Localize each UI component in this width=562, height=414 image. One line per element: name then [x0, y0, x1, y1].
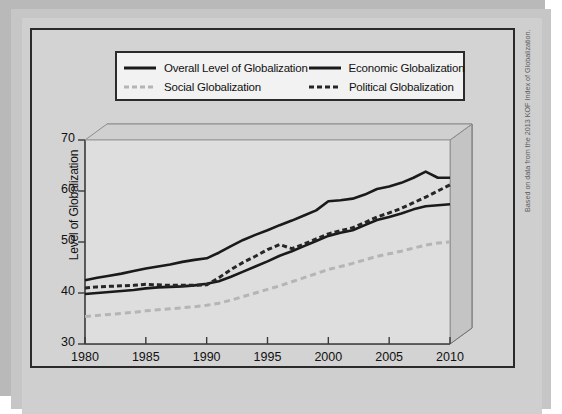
x-tick-label: 2000 [306, 350, 350, 364]
legend-row-1: Overall Level of Globalization Economic … [123, 58, 457, 77]
legend-row-2: Social Globalization Political Globaliza… [123, 77, 457, 96]
legend-label-political: Political Globalization [349, 81, 454, 93]
legend-label-economic: Economic Globalization [349, 62, 465, 74]
legend-swatch-solid-dark-2-icon [308, 63, 342, 73]
legend-swatch-dashed-dark-icon [308, 82, 342, 92]
legend-swatch-solid-dark-icon [123, 63, 157, 73]
x-tick-label: 2010 [428, 350, 472, 364]
screenshot-root: Overall Level of Globalization Economic … [0, 0, 562, 414]
legend-item-political: Political Globalization [308, 77, 457, 96]
y-tick-label: 60 [49, 182, 75, 196]
x-tick-label: 1995 [246, 350, 290, 364]
y-axis-label: Level of Globalization [67, 120, 81, 290]
legend-label-social: Social Globalization [164, 81, 261, 93]
source-note: Based on data from the 2013 KOF Index of… [523, 12, 532, 212]
x-tick-label: 2005 [367, 350, 411, 364]
y-tick-label: 50 [49, 233, 75, 247]
x-tick-label: 1985 [124, 350, 168, 364]
legend-label-overall: Overall Level of Globalization [164, 62, 308, 74]
legend-swatch-dashed-light-icon [123, 82, 157, 92]
x-tick-label: 1990 [185, 350, 229, 364]
y-tick-label: 30 [49, 335, 75, 349]
legend-item-overall: Overall Level of Globalization [123, 58, 308, 77]
chart-panel: Overall Level of Globalization Economic … [30, 28, 515, 368]
legend-item-social: Social Globalization [123, 77, 308, 96]
legend-item-economic: Economic Globalization [308, 58, 458, 77]
x-tick-label: 1980 [63, 350, 107, 364]
y-tick-label: 40 [49, 284, 75, 298]
chart-legend: Overall Level of Globalization Economic … [115, 51, 465, 101]
y-tick-label: 70 [49, 131, 75, 145]
